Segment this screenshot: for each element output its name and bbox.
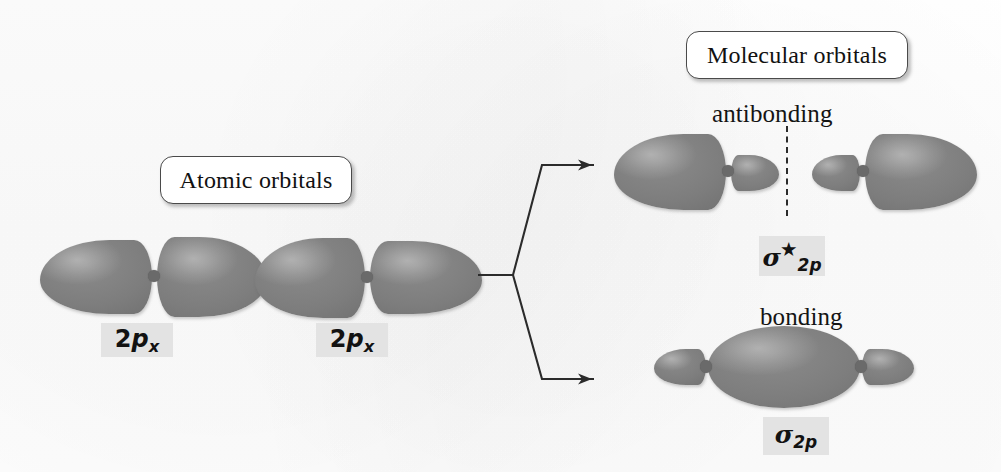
- bonding-orbital-symbol: σ2p: [763, 417, 829, 455]
- orbital-lobe-left: [40, 240, 152, 314]
- atomic-orbitals-callout: Atomic orbitals: [160, 156, 352, 204]
- antibonding-orbital-symbol: σ★2p: [759, 236, 825, 276]
- molecular-orbitals-callout: Molecular orbitals: [686, 31, 908, 79]
- antibonding-lobe-outer-right: [865, 134, 977, 210]
- atomic-orbital-1-symbol: 2px: [101, 323, 173, 357]
- molecular-orbitals-callout-label: Molecular orbitals: [707, 42, 887, 69]
- bonding-orbital-symbol-text: σ2p: [775, 420, 817, 452]
- branch-connector: [478, 155, 623, 405]
- atomic-orbital-2-symbol-text: 2px: [330, 325, 374, 356]
- arrowhead-upper: [578, 160, 592, 171]
- atomic-orbitals-callout-label: Atomic orbitals: [180, 167, 333, 194]
- atomic-orbital-1-symbol-text: 2px: [115, 325, 159, 356]
- antibonding-lobe-inner-left: [731, 155, 779, 191]
- bonding-lobe-small-right: [862, 349, 914, 385]
- connector-branch-lower: [513, 275, 594, 379]
- connector-branch-upper: [513, 165, 594, 275]
- bonding-nucleus-left: [700, 360, 712, 373]
- figure-canvas: 2px 2px Atomic orbitals Molecular orbita…: [0, 0, 1001, 472]
- orbital-nucleus: [148, 270, 160, 282]
- antibonding-lobe-inner-right: [812, 155, 860, 191]
- antibonding-label: antibonding: [712, 100, 833, 128]
- antibonding-lobe-outer-left: [614, 134, 726, 210]
- bonding-nucleus-right: [855, 360, 867, 373]
- antibonding-nucleus-right: [857, 165, 869, 177]
- orbital-lobe-right: [370, 241, 482, 314]
- nodal-plane-dashed-line: [786, 126, 788, 216]
- atomic-orbital-2-symbol: 2px: [316, 323, 388, 357]
- bonding-lobe-central: [708, 326, 860, 408]
- antibonding-nucleus-left: [722, 165, 734, 177]
- orbital-lobe-right: [157, 237, 267, 317]
- arrowhead-lower: [578, 374, 592, 385]
- bonding-lobe-small-left: [654, 349, 706, 385]
- orbital-nucleus: [361, 271, 373, 283]
- orbital-lobe-left: [255, 238, 365, 318]
- antibonding-orbital-symbol-text: σ★2p: [762, 238, 821, 275]
- bonding-label: bonding: [760, 303, 843, 331]
